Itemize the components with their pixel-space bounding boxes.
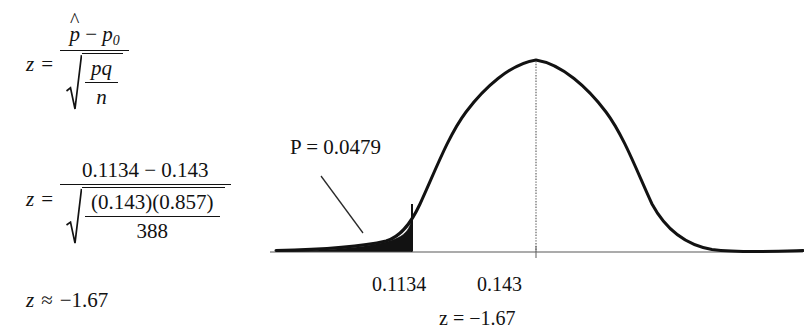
formula-general-denominator: pq n [60, 51, 129, 110]
formula-numeric-lhs: z [26, 187, 34, 212]
result-lhs: z [26, 288, 34, 313]
formula-general-numerator: ^p − p0 [60, 22, 129, 51]
figure-page: z= ^p − p0 pq n [0, 0, 804, 331]
figure-caption-z-value: z = −1.67 [439, 307, 515, 330]
formula-numeric-equals: = [41, 187, 53, 212]
formula-general-minus: − [85, 22, 97, 46]
formula-general-z: z= ^p − p0 pq n [26, 22, 129, 110]
radicand-numeric: (0.143)(0.857) 388 [82, 187, 224, 244]
numeric-radicand-denominator: 388 [85, 217, 219, 244]
radicand-pq-over-n: pq n [82, 53, 123, 110]
formula-numeric-fraction: 0.1134 − 0.143 (0.143)(0.857) 388 [60, 158, 230, 244]
shaded-tail-region [276, 204, 412, 252]
formula-general-fraction: ^p − p0 pq n [60, 22, 129, 110]
result-value: −1.67 [60, 288, 109, 312]
p-hat-symbol: ^p [69, 22, 80, 47]
numeric-radicand-fraction: (0.143)(0.857) 388 [85, 190, 219, 244]
square-root-icon: (0.143)(0.857) 388 [66, 187, 224, 244]
approx-equals-icon: ≈ [41, 288, 53, 313]
p-null-letter: p [102, 22, 113, 46]
hat-accent-icon: ^ [70, 11, 79, 31]
formula-numeric-z: z= 0.1134 − 0.143 (0.143)(0.857) 388 [26, 158, 231, 244]
annotation-leader-line [321, 176, 363, 233]
formula-general-lhs: z [26, 52, 34, 77]
normal-distribution-figure: P = 0.0479 0.1134 0.143 z = −1.67 [262, 24, 804, 331]
radical-stroke-icon [66, 53, 82, 110]
p-null-subscript: 0 [113, 33, 120, 48]
x-axis-label-mean: 0.143 [477, 273, 522, 296]
pq-numerator: pq [85, 56, 118, 83]
radical-stroke-icon [66, 187, 82, 244]
n-denominator: n [85, 83, 118, 110]
formula-numeric-numerator: 0.1134 − 0.143 [60, 158, 230, 185]
pq-over-n-fraction: pq n [85, 56, 118, 110]
formula-numeric-denominator: (0.143)(0.857) 388 [60, 185, 230, 244]
numeric-radicand-numerator: (0.143)(0.857) [85, 190, 219, 217]
p-value-annotation: P = 0.0479 [290, 135, 381, 160]
formula-general-equals: = [41, 52, 53, 77]
x-axis-label-critical-value: 0.1134 [372, 273, 426, 296]
square-root-icon: pq n [66, 53, 123, 110]
result-z-value: z≈−1.67 [26, 288, 108, 313]
